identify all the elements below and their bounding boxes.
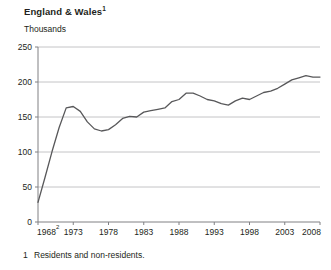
figure-container: England & Wales1 Thousands 0501001502002… [0,0,331,270]
y-axis-tick-label: 250 [18,42,32,52]
x-axis-tick-label: 19682 [37,224,60,237]
footnote-text: Residents and non-residents. [34,250,145,260]
gridlines-group [38,47,320,187]
footnote: 1Residents and non-residents. [23,250,145,260]
x-axis-tick-label: 1973 [64,227,83,237]
x-axis-tick-label: 2003 [275,227,294,237]
x-axis-tick-label: 1983 [134,227,153,237]
y-axis-tick-label: 200 [18,77,32,87]
y-axis-tick-label: 150 [18,112,32,122]
y-axis-tick-label: 0 [27,217,32,227]
x-axis-tick-label: 1978 [99,227,118,237]
x-axis-tick-label: 1998 [240,227,259,237]
x-axis-tick-label: 1988 [170,227,189,237]
x-axis-ticks-group: 1968219731978198319881993199820032008 [37,222,321,237]
x-axis-tick-label: 1993 [205,227,224,237]
line-chart-plot: 050100150200250 196821973197819831988199… [0,0,331,270]
x-axis-tick-label: 2008 [302,227,321,237]
footnote-number: 1 [23,250,34,260]
y-axis-tick-label: 100 [18,147,32,157]
y-axis-tick-label: 50 [23,182,33,192]
y-axis-ticks-group: 050100150200250 [18,42,38,227]
data-series-line [38,76,320,203]
